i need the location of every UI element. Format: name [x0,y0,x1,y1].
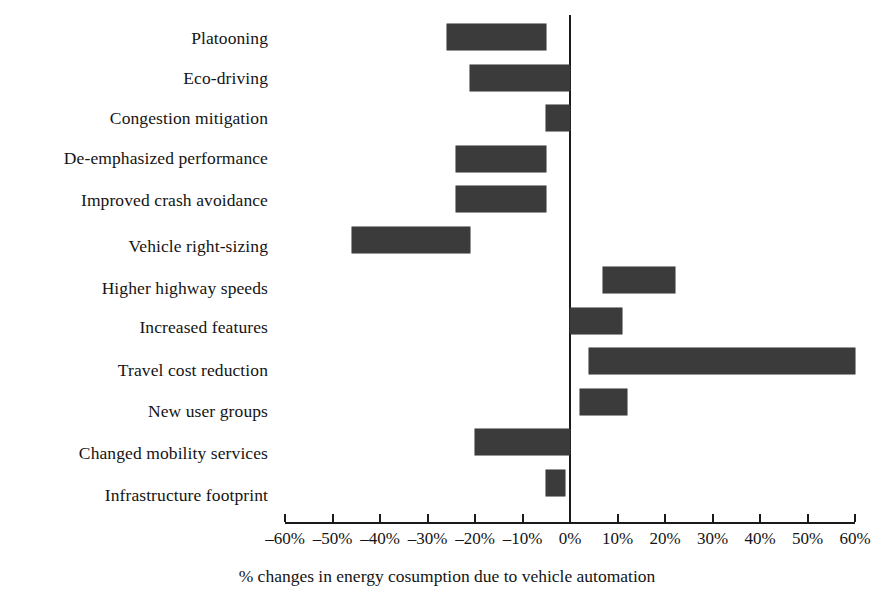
x-axis-tick [759,514,761,522]
bar [546,105,570,131]
bar [546,470,565,496]
x-axis-tick-label: 60% [825,530,885,547]
x-axis-tick [284,514,286,522]
bar [589,348,855,374]
x-axis-tick [854,514,856,522]
plot-area: –60%–50%–40%–30%–20%–10%0%10%20%30%40%50… [0,0,894,612]
chart-container: Platooning Eco-driving Congestion mitiga… [0,0,894,612]
bar [456,146,546,172]
bar [447,24,547,50]
x-axis-tick [712,514,714,522]
x-axis-tick [617,514,619,522]
x-axis-tick [379,514,381,522]
bar [470,65,570,91]
x-axis-tick [474,514,476,522]
bar [580,389,628,415]
bar [475,429,570,455]
x-axis-tick [332,514,334,522]
x-axis-tick [522,514,524,522]
x-axis-line [285,522,855,524]
bar [352,227,471,253]
bar [570,308,622,334]
bar [603,267,674,293]
x-axis-tick [427,514,429,522]
x-axis-caption: % changes in energy cosumption due to ve… [0,566,894,587]
x-axis-tick [664,514,666,522]
x-axis-tick [807,514,809,522]
bar [456,186,546,212]
x-axis-tick [569,514,571,522]
